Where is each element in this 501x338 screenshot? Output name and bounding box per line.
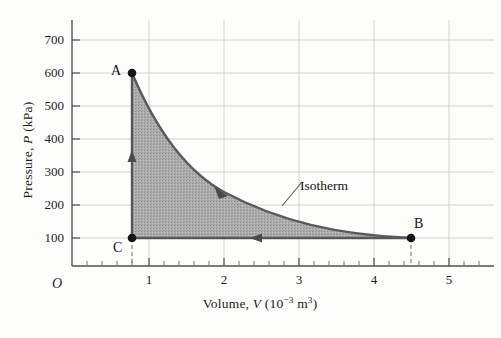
xtick-label-5: 5 <box>437 272 461 288</box>
x-axis-title-prefix: Volume, <box>203 296 253 311</box>
x-axis-title-units-mid: m <box>294 296 308 311</box>
xtick-label-1: 1 <box>137 272 161 288</box>
droplines <box>132 238 411 266</box>
point-label-c: C <box>113 240 122 256</box>
ytick-label-700: 700 <box>24 32 64 48</box>
xtick-label-2: 2 <box>212 272 236 288</box>
x-axis-title-symbol: V <box>253 296 261 311</box>
point-label-a: A <box>111 63 121 79</box>
pv-diagram-figure: 700 600 500 400 300 200 100 1 2 3 4 5 O … <box>0 0 501 338</box>
y-axis-title-units: (kPa) <box>20 102 35 136</box>
x-axis-minor-ticks <box>87 261 479 266</box>
pv-diagram-plot <box>0 0 501 338</box>
y-axis-title-symbol: P <box>20 135 35 143</box>
origin-label: O <box>52 276 62 292</box>
point-label-b: B <box>414 216 423 232</box>
y-axis-title: Pressure, P (kPa) <box>20 60 36 240</box>
xtick-label-3: 3 <box>287 272 311 288</box>
point-marker-b <box>407 234 416 243</box>
x-axis-title-units-close: ) <box>313 296 318 311</box>
point-marker-a <box>128 69 137 78</box>
point-marker-c <box>128 234 137 243</box>
y-axis-ticks <box>72 40 80 238</box>
isotherm-annotation-label: Isotherm <box>300 178 348 194</box>
y-axis-title-prefix: Pressure, <box>20 144 35 199</box>
x-axis-title-exponent: −3 <box>283 295 293 305</box>
bottom-caption <box>36 330 336 338</box>
x-axis-title-units-open: (10 <box>261 296 283 311</box>
x-axis-title: Volume, V (10−3 m3) <box>150 296 370 312</box>
xtick-label-4: 4 <box>362 272 386 288</box>
